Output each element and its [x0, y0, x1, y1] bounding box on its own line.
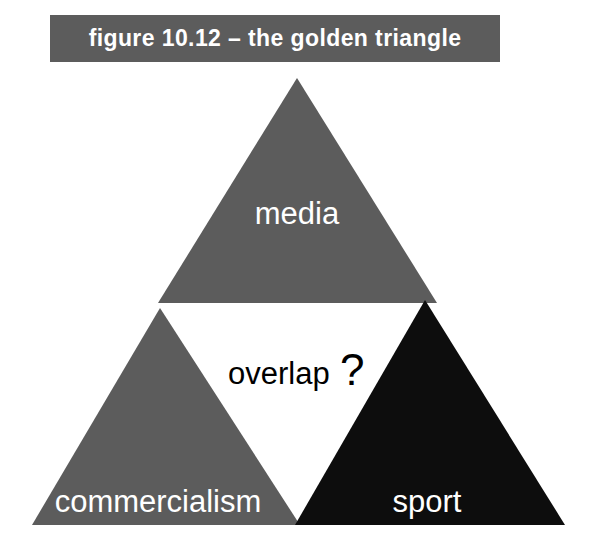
overlap-annotation: overlap ? — [228, 345, 364, 394]
triangle-commercialism: commercialism — [32, 308, 300, 525]
triangle-sport: sport — [295, 300, 565, 525]
triangle-media-shape — [158, 78, 437, 303]
triangle-media: media — [158, 78, 437, 303]
triangle-commercialism-label: commercialism — [55, 484, 262, 519]
figure-page: figure 10.12 – the golden triangle media… — [0, 0, 589, 539]
overlap-question-mark: ? — [340, 345, 364, 394]
triangle-media-label: media — [255, 196, 340, 231]
golden-triangle-diagram: media commercialism sport overlap ? — [0, 0, 589, 539]
triangle-sport-label: sport — [393, 484, 462, 519]
overlap-label: overlap — [228, 356, 330, 391]
